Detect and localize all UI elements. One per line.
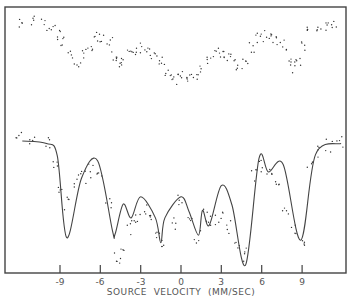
data-point (252, 45, 253, 46)
data-point (110, 207, 111, 208)
data-point (33, 20, 34, 21)
data-point (253, 52, 254, 53)
data-point (288, 213, 289, 214)
data-point (116, 58, 117, 59)
data-point (213, 56, 214, 57)
data-point (288, 60, 289, 61)
data-point (230, 220, 231, 221)
data-point (210, 57, 211, 58)
data-point (80, 173, 81, 174)
data-point (53, 161, 54, 162)
x-axis-title: SOURCE VELOCITY (MM/SEC) (107, 287, 255, 297)
data-point (207, 212, 208, 213)
x-axis-tick-labels: -9 -6 -3 0 3 6 9 (56, 277, 306, 287)
data-point (156, 232, 157, 233)
data-point (325, 22, 326, 23)
data-point (151, 219, 152, 220)
data-point (227, 229, 228, 230)
data-point (99, 41, 100, 42)
data-point (76, 179, 77, 180)
data-point (278, 184, 279, 185)
data-point (197, 79, 198, 80)
data-point (271, 173, 272, 174)
data-point (254, 180, 255, 181)
data-point (81, 171, 82, 172)
data-point (133, 52, 134, 53)
data-point (121, 62, 122, 63)
data-point (32, 18, 33, 19)
data-point (237, 65, 238, 66)
data-point (326, 139, 327, 140)
data-point (119, 63, 120, 64)
data-point (227, 60, 228, 61)
mossbauer-spectrum-chart: -9 -6 -3 0 3 6 9 SOURCE VELOCITY (MM/SEC… (0, 0, 352, 297)
data-point (80, 62, 81, 63)
data-point (284, 207, 285, 208)
data-point (210, 216, 211, 217)
data-point (109, 44, 110, 45)
data-point (103, 35, 104, 36)
data-point (302, 240, 303, 241)
data-point (134, 220, 135, 221)
data-point (270, 35, 271, 36)
data-point (164, 64, 165, 65)
data-point (173, 217, 174, 218)
data-point (49, 28, 50, 29)
data-point (144, 211, 145, 212)
data-point (286, 49, 287, 50)
data-point (71, 54, 72, 55)
data-point (261, 33, 262, 34)
data-point (325, 150, 326, 151)
data-point (223, 51, 224, 52)
data-point (307, 30, 308, 31)
data-point (44, 24, 45, 25)
data-point (58, 187, 59, 188)
data-point (175, 223, 176, 224)
data-point (97, 40, 98, 41)
data-point (159, 63, 160, 64)
data-point (271, 34, 272, 35)
data-point (264, 30, 265, 31)
data-point (49, 139, 50, 140)
data-point (215, 224, 216, 225)
data-point (137, 221, 138, 222)
data-point (109, 198, 110, 199)
data-point (139, 214, 140, 215)
data-point (178, 74, 179, 75)
data-point (342, 146, 343, 147)
data-point (85, 49, 86, 50)
data-point (121, 58, 122, 59)
x-tick-label: -3 (137, 277, 146, 287)
data-point (203, 209, 204, 210)
data-point (228, 53, 229, 54)
data-point (260, 36, 261, 37)
data-point (317, 146, 318, 147)
x-tick-label: -6 (96, 277, 105, 287)
data-point (15, 137, 16, 138)
data-point (307, 27, 308, 28)
data-point (146, 51, 147, 52)
data-point (218, 48, 219, 49)
data-point (246, 247, 247, 248)
data-point (34, 137, 35, 138)
data-point (243, 261, 244, 262)
data-point (255, 34, 256, 35)
data-point (208, 222, 209, 223)
data-point (290, 64, 291, 65)
data-point (68, 52, 69, 53)
data-point (130, 50, 131, 51)
data-point (76, 64, 77, 65)
data-point (251, 170, 252, 171)
data-point (127, 49, 128, 50)
data-point (168, 70, 169, 71)
data-point (220, 56, 221, 57)
data-point (105, 202, 106, 203)
data-point (317, 29, 318, 30)
data-point (140, 42, 141, 43)
data-point (311, 163, 312, 164)
data-point (99, 34, 100, 35)
data-point (82, 50, 83, 51)
data-point (51, 29, 52, 30)
data-point (165, 75, 166, 76)
x-tick-label: -9 (56, 277, 65, 287)
